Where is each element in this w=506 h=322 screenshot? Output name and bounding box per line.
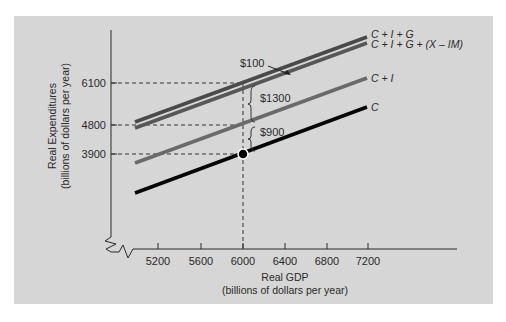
x-tick-6800: 6800 xyxy=(315,255,339,267)
x-axis-subtitle: (billions of dollars per year) xyxy=(222,284,348,296)
x-tick-6400: 6400 xyxy=(273,255,297,267)
y-tick-3900: 3900 xyxy=(82,148,106,160)
series-label-ci: C + I xyxy=(371,72,394,84)
chart-svg: 6100 4800 3900 5200 5600 6000 6400 6800 … xyxy=(0,0,506,322)
y-axis xyxy=(105,30,116,252)
y-tick-4800: 4800 xyxy=(82,119,106,131)
y-axis-subtitle: (billions of dollars per year) xyxy=(59,63,71,189)
equilibrium-point xyxy=(238,149,248,159)
x-tick-5200: 5200 xyxy=(146,255,170,267)
bracket-1300 xyxy=(248,86,255,122)
series-label-cigx: C + I + G + (X – IM) xyxy=(371,38,463,50)
x-tick-5600: 5600 xyxy=(189,255,213,267)
x-tick-7200: 7200 xyxy=(356,255,380,267)
x-axis-title: Real GDP xyxy=(261,271,308,283)
y-tick-6100: 6100 xyxy=(82,77,106,89)
annotation-900: $900 xyxy=(260,126,284,138)
series-label-c: C xyxy=(371,101,379,113)
x-tick-6000: 6000 xyxy=(231,255,255,267)
annotation-1300: $1300 xyxy=(260,92,291,104)
annotation-100: $100 xyxy=(240,57,264,69)
y-axis-title: Real Expenditures xyxy=(46,83,58,169)
